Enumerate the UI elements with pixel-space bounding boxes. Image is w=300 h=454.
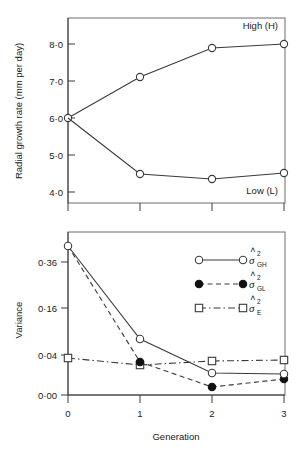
legend-item-sigma-gh[interactable]: ˄ σ 2 GH bbox=[195, 245, 267, 268]
legend-sub-e: E bbox=[257, 309, 262, 316]
legend-sigma-gh: σ bbox=[249, 254, 255, 266]
top-chart-panel: 8·0 7·0 6·0 5·0 4·0 Radial growth rate (… bbox=[0, 0, 300, 220]
legend-sup-gl: 2 bbox=[257, 274, 261, 281]
series-low-markers bbox=[136, 169, 287, 182]
legend-sigma-gl: σ bbox=[249, 278, 255, 290]
top-ytick-label-5: 5·0 bbox=[49, 150, 63, 161]
legend-sup-gh: 2 bbox=[257, 250, 261, 257]
bottom-ytick-label-016: 0·16 bbox=[38, 303, 57, 314]
annotation-high: High (H) bbox=[243, 20, 278, 31]
top-y-axis-title: Radial growth rate (mm per day) bbox=[13, 43, 24, 179]
bottom-ytick-label-004: 0·04 bbox=[38, 350, 57, 361]
bottom-y-axis-title: Variance bbox=[13, 302, 24, 339]
top-ytick-label-7: 7·0 bbox=[49, 76, 63, 87]
bottom-xtick-label-2: 2 bbox=[209, 408, 214, 419]
legend-sup-e: 2 bbox=[257, 298, 261, 305]
series-sigma-gl-line bbox=[68, 246, 284, 387]
top-ytick-label-8: 8·0 bbox=[49, 39, 63, 50]
bottom-xtick-label-1: 1 bbox=[137, 408, 142, 419]
annotation-low: Low (L) bbox=[246, 185, 278, 196]
bottom-ytick-label-000: 0·00 bbox=[38, 390, 57, 401]
bottom-xtick-label-0: 0 bbox=[65, 408, 70, 419]
legend-sub-gl: GL bbox=[257, 285, 266, 292]
series-high-markers bbox=[64, 40, 287, 121]
bottom-chart-panel: 0·36 0·16 0·04 0·00 0 1 2 3 Variance Gen… bbox=[0, 220, 300, 454]
top-x-ticks bbox=[68, 203, 284, 211]
legend-sub-gh: GH bbox=[257, 261, 267, 268]
legend: ˄ σ 2 GH ˄ σ 2 GL ˄ σ bbox=[195, 245, 267, 316]
bottom-x-ticks bbox=[68, 395, 284, 403]
bottom-x-axis-title: Generation bbox=[152, 431, 199, 442]
top-ytick-label-4: 4·0 bbox=[49, 187, 63, 198]
legend-item-sigma-gl[interactable]: ˄ σ 2 GL bbox=[195, 269, 266, 292]
legend-item-sigma-e[interactable]: ˄ σ 2 E bbox=[195, 293, 262, 316]
bottom-y-ticks bbox=[61, 262, 68, 395]
series-sigma-e-line bbox=[68, 358, 284, 365]
series-high-line bbox=[68, 44, 284, 118]
legend-sigma-e: σ bbox=[249, 302, 255, 314]
bottom-xtick-label-3: 3 bbox=[281, 408, 286, 419]
figure-container: 8·0 7·0 6·0 5·0 4·0 Radial growth rate (… bbox=[0, 0, 300, 454]
series-low-line bbox=[68, 118, 284, 179]
top-ytick-label-6: 6·0 bbox=[49, 113, 63, 124]
bottom-ytick-label-036: 0·36 bbox=[38, 257, 57, 268]
